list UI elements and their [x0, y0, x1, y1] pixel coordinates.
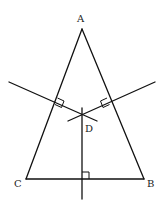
label-b: B	[147, 178, 154, 189]
side-ac	[26, 29, 82, 179]
triangle-diagram: A C B D	[0, 0, 164, 208]
label-a: A	[76, 13, 85, 24]
label-d: D	[85, 123, 93, 134]
perp-bisector-ab	[68, 82, 155, 121]
side-ab	[82, 29, 144, 179]
perp-bisector-ac	[9, 82, 97, 121]
right-angle-mark-bc	[82, 172, 89, 179]
label-c: C	[14, 178, 22, 189]
